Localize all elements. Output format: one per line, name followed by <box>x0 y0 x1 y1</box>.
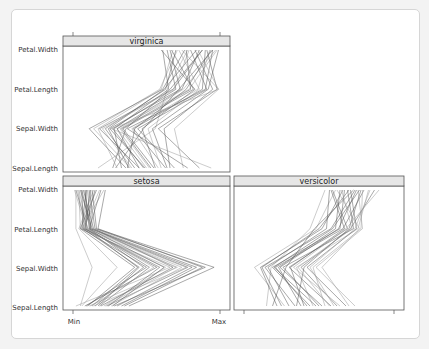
panel-frame <box>234 186 404 310</box>
x-tick-min: Min <box>68 318 80 326</box>
strip-label-virginica: virginica <box>130 37 164 46</box>
y-label-sepal-width-bottom: Sepal.Width <box>16 265 58 273</box>
data-line <box>92 190 214 306</box>
data-line <box>89 50 185 168</box>
parallel-plot: virginicasetosaversicolor Petal.Width Pe… <box>0 0 429 349</box>
data-line <box>273 190 354 306</box>
strip-label-versicolor: versicolor <box>299 177 339 186</box>
data-line <box>79 190 186 306</box>
data-line <box>111 50 218 168</box>
data-line <box>98 50 188 168</box>
y-label-petal-width-top: Petal.Width <box>18 46 58 54</box>
y-label-sepal-length-top: Sepal.Length <box>12 165 58 173</box>
data-line <box>89 190 205 306</box>
panel-virginica: virginica <box>63 32 230 172</box>
y-label-sepal-width-top: Sepal.Width <box>16 125 58 133</box>
data-line <box>307 190 357 306</box>
x-tick-max: Max <box>212 318 226 326</box>
panel-setosa: setosa <box>63 176 230 314</box>
y-label-petal-width-bottom: Petal.Width <box>18 186 58 194</box>
data-line <box>268 190 330 306</box>
data-line <box>291 190 345 306</box>
data-line <box>267 190 326 306</box>
data-line <box>89 190 164 306</box>
data-line <box>152 50 218 168</box>
data-line <box>142 50 195 168</box>
strip-label-setosa: setosa <box>133 177 159 186</box>
panel-versicolor: versicolor <box>234 176 404 314</box>
y-label-sepal-length-bottom: Sepal.Length <box>12 304 58 312</box>
data-line <box>274 190 360 306</box>
y-label-petal-length-top: Petal.Length <box>14 86 58 94</box>
y-label-petal-length-bottom: Petal.Length <box>14 226 58 234</box>
